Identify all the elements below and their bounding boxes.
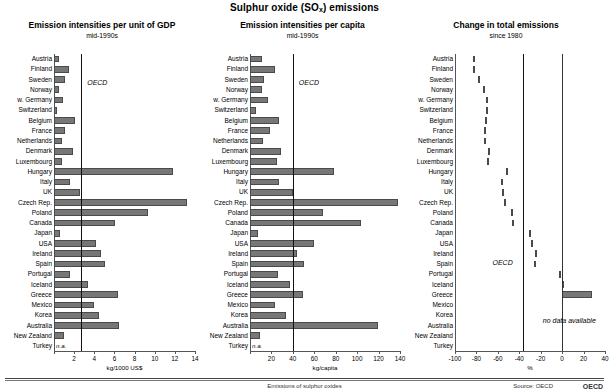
country-label: Czech Rep. xyxy=(6,198,52,208)
bar xyxy=(512,220,514,227)
country-label: w. Germany xyxy=(6,95,52,105)
bar xyxy=(250,291,303,298)
chart-row: Norway xyxy=(200,85,400,95)
chart-row: Mexico xyxy=(405,300,605,310)
chart-row: UK xyxy=(405,187,605,197)
country-label: Korea xyxy=(407,310,453,320)
bar xyxy=(54,312,99,319)
axis-tick-label: 100 xyxy=(345,354,369,363)
bar xyxy=(54,138,62,145)
bar xyxy=(534,261,536,268)
chart-row: Netherlands xyxy=(4,136,195,146)
country-label: Canada xyxy=(407,218,453,228)
country-label: Canada xyxy=(202,218,248,228)
chart-row: USA xyxy=(405,239,605,249)
bar xyxy=(250,66,275,73)
chart-row: Spain xyxy=(4,259,195,269)
country-label: Sweden xyxy=(6,75,52,85)
chart-row: Turkeyn.a. xyxy=(200,341,400,351)
panel-title: Emission intensities per capita xyxy=(200,20,405,31)
country-label: Greece xyxy=(202,290,248,300)
oecd-reference-line xyxy=(523,54,524,351)
bar xyxy=(54,117,75,124)
panel-subtitle: since 1980 xyxy=(405,31,607,41)
country-label: USA xyxy=(202,239,248,249)
bar xyxy=(54,332,64,339)
country-label: Spain xyxy=(407,259,453,269)
bar xyxy=(250,312,286,319)
bar xyxy=(250,86,262,93)
chart-row: w. Germany xyxy=(405,95,605,105)
axis-tick-label: 40 xyxy=(593,354,609,363)
country-label: Turkey xyxy=(6,341,52,351)
country-label: Italy xyxy=(6,177,52,187)
chart-row: Australia xyxy=(200,321,400,331)
bar xyxy=(54,302,94,309)
chart-row: Denmark xyxy=(200,146,400,156)
bar xyxy=(54,291,118,298)
panel-subtitle: mid-1990s xyxy=(200,31,405,41)
chart-row: Switzerland xyxy=(200,105,400,115)
bar xyxy=(483,86,485,93)
chart-row: Portugal xyxy=(200,269,400,279)
chart-row: Japan xyxy=(4,228,195,238)
chart-row: Italy xyxy=(4,177,195,187)
country-label: Greece xyxy=(6,290,52,300)
country-label: Norway xyxy=(407,85,453,95)
country-label: Turkey xyxy=(407,341,453,351)
chart-row: Netherlands xyxy=(200,136,400,146)
bar xyxy=(250,322,378,329)
chart-row: Japan xyxy=(200,228,400,238)
chart-row: w. Germany xyxy=(4,95,195,105)
country-label: Austria xyxy=(6,54,52,64)
bar xyxy=(54,158,62,165)
chart-row: Hungary xyxy=(405,167,605,177)
bar xyxy=(54,240,96,247)
country-label: Portugal xyxy=(6,269,52,279)
chart-row: Canada xyxy=(4,218,195,228)
country-label: w. Germany xyxy=(407,95,453,105)
country-label: Korea xyxy=(6,310,52,320)
bar xyxy=(54,86,59,93)
bar xyxy=(250,107,256,114)
panel-per-capita-intensity: Emission intensities per capita mid-1990… xyxy=(200,20,405,370)
footer-divider-secondary xyxy=(5,380,604,381)
bar xyxy=(54,199,187,206)
chart-row: Ireland xyxy=(200,249,400,259)
country-label: Spain xyxy=(202,259,248,269)
chart-row: Norway xyxy=(4,85,195,95)
panel-title: Change in total emissions xyxy=(405,20,607,31)
axis-tick-label: 20 xyxy=(572,354,596,363)
chart-row: Belgium xyxy=(200,116,400,126)
chart-row: Turkeyn.a. xyxy=(4,341,195,351)
axis-tick-label: 60 xyxy=(302,354,326,363)
chart-row: Luxembourg xyxy=(200,157,400,167)
chart-row: France xyxy=(405,126,605,136)
chart-row: Denmark xyxy=(405,146,605,156)
country-label: France xyxy=(6,126,52,136)
country-label: Belgium xyxy=(407,116,453,126)
bar xyxy=(250,158,277,165)
country-label: Norway xyxy=(6,85,52,95)
chart-row: Sweden xyxy=(405,75,605,85)
chart-row: UK xyxy=(4,187,195,197)
country-label: Austria xyxy=(407,54,453,64)
axis-tick-label: -40 xyxy=(507,354,531,363)
country-label: Mexico xyxy=(202,300,248,310)
bar xyxy=(535,250,537,257)
oecd-label: OECD xyxy=(299,79,319,86)
country-label: Luxembourg xyxy=(6,157,52,167)
bar xyxy=(250,209,323,216)
chart-row: Ireland xyxy=(4,249,195,259)
country-label: Japan xyxy=(202,228,248,238)
bar xyxy=(250,281,290,288)
chart-row: New Zealand xyxy=(200,331,400,341)
country-label: Austria xyxy=(202,54,248,64)
country-label: Sweden xyxy=(202,75,248,85)
bar xyxy=(54,281,88,288)
axis-tick-label: -100 xyxy=(443,354,467,363)
country-label: Norway xyxy=(202,85,248,95)
bar xyxy=(250,271,278,278)
bar xyxy=(486,107,488,114)
x-axis-title: kg/capita xyxy=(250,363,400,372)
